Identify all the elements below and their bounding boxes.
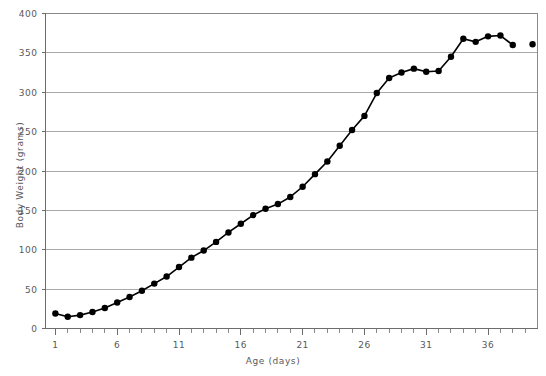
data-point-marker: [460, 36, 466, 42]
data-point-marker: [163, 273, 169, 279]
data-point-marker: [65, 313, 71, 319]
data-point-marker: [275, 201, 281, 207]
x-tick-label: 1: [52, 340, 58, 350]
y-tick-label: 400: [19, 9, 38, 19]
data-point-marker: [497, 32, 503, 38]
data-point-marker: [411, 65, 417, 71]
data-point-marker: [423, 69, 429, 75]
data-point-marker: [472, 39, 478, 45]
data-point-marker: [188, 254, 194, 260]
data-point-marker: [337, 143, 343, 149]
y-tick-label: 300: [19, 88, 38, 98]
x-tick-label: 11: [173, 340, 185, 350]
data-point-marker: [176, 264, 182, 270]
data-point-marker: [299, 184, 305, 190]
data-point-marker: [510, 42, 516, 48]
data-point-marker: [448, 54, 454, 60]
x-tick-label: 31: [420, 340, 432, 350]
data-point-marker: [398, 69, 404, 75]
x-tick-label: 16: [235, 340, 247, 350]
series-line: [55, 36, 512, 317]
chart-plot-area: 05010015020025030035040016111621263136: [0, 0, 546, 376]
x-tick-label: 36: [482, 340, 494, 350]
data-point-marker: [126, 294, 132, 300]
y-tick-label: 350: [19, 48, 38, 58]
data-point-marker: [529, 41, 535, 47]
data-point-marker: [213, 239, 219, 245]
data-point-marker: [238, 221, 244, 227]
x-tick-label: 21: [296, 340, 308, 350]
y-tick-label: 50: [25, 285, 37, 295]
data-point-marker: [201, 247, 207, 253]
data-point-marker: [435, 68, 441, 74]
y-axis-title: Body Weight (grams): [15, 100, 25, 250]
data-point-marker: [361, 113, 367, 119]
data-point-marker: [349, 127, 355, 133]
data-point-marker: [312, 171, 318, 177]
data-point-marker: [89, 309, 95, 315]
data-point-marker: [374, 90, 380, 96]
data-point-marker: [114, 299, 120, 305]
data-point-marker: [324, 158, 330, 164]
data-point-marker: [250, 212, 256, 218]
data-point-marker: [151, 280, 157, 286]
data-point-marker: [225, 229, 231, 235]
data-point-marker: [77, 312, 83, 318]
data-point-marker: [485, 33, 491, 39]
data-point-marker: [139, 288, 145, 294]
x-tick-label: 6: [114, 340, 120, 350]
data-point-marker: [287, 194, 293, 200]
data-point-marker: [52, 310, 58, 316]
data-point-marker: [386, 75, 392, 81]
x-tick-label: 26: [358, 340, 370, 350]
y-tick-label: 0: [31, 324, 37, 334]
growth-curve-chart: 05010015020025030035040016111621263136 B…: [0, 0, 546, 376]
x-axis-title: Age (days): [0, 356, 546, 366]
data-point-marker: [262, 206, 268, 212]
data-point-marker: [102, 305, 108, 311]
